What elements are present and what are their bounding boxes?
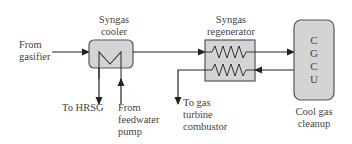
cgcu-letter-u: U: [306, 73, 322, 86]
to-combustor-label: To gas turbine combustor: [183, 97, 227, 133]
cgcu-letters: C G C U: [306, 34, 322, 86]
cgcu-letter-g: G: [306, 47, 322, 60]
combustor-line1: To gas: [183, 97, 227, 109]
regenerator-line2: regenerator: [202, 26, 260, 38]
feedwater-line1: From: [118, 102, 159, 114]
cgcu-letter-c1: C: [306, 34, 322, 47]
from-gasifier-label: From gasifier: [19, 39, 51, 63]
syngas-cooler-label: Syngas cooler: [92, 14, 136, 38]
syngas-cooler-line2: cooler: [92, 26, 136, 38]
from-gasifier-line2: gasifier: [19, 51, 51, 63]
to-hrsg-text: To HRSG: [62, 102, 104, 114]
from-feedwater-label: From feedwater pump: [118, 102, 159, 138]
syngas-cooler-box: [89, 40, 133, 68]
feedwater-line3: pump: [118, 126, 159, 138]
cgcu-caption-line2: cleanup: [290, 118, 338, 130]
from-gasifier-line1: From: [19, 39, 51, 51]
regenerator-line1: Syngas: [202, 14, 260, 26]
syngas-regenerator-box: [205, 40, 255, 81]
combustor-line2: turbine: [183, 109, 227, 121]
syngas-regenerator-label: Syngas regenerator: [202, 14, 260, 38]
feedwater-line2: feedwater: [118, 114, 159, 126]
cgcu-caption: Cool gas cleanup: [290, 106, 338, 130]
syngas-cooler-line1: Syngas: [92, 14, 136, 26]
combustor-line3: combustor: [183, 121, 227, 133]
cgcu-caption-line1: Cool gas: [290, 106, 338, 118]
cgcu-letter-c2: C: [306, 60, 322, 73]
to-hrsg-label: To HRSG: [62, 102, 104, 114]
